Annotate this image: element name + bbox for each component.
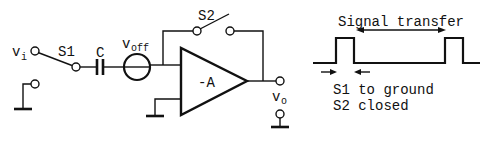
offset-source-label: v off: [122, 36, 149, 54]
svg-text:i: i: [21, 52, 27, 63]
svg-text:v: v: [12, 44, 20, 60]
noninverting-input-wire: [155, 99, 181, 115]
switch2-label: S2: [198, 8, 215, 24]
pulse-width-arrows-icon: [321, 69, 370, 75]
svg-text:v: v: [272, 89, 280, 105]
signal-transfer-label: Signal transfer: [338, 14, 464, 30]
capacitor-icon: [97, 59, 103, 75]
switch-control-waveform: [313, 38, 480, 63]
output-terminal-icon: [276, 77, 284, 85]
input-terminal-icon: [31, 47, 39, 55]
output-ground-terminal-icon: [276, 110, 284, 118]
feedback-wire-right: [234, 31, 263, 81]
output-label: v o: [272, 89, 287, 107]
input-terminal-label: v i: [12, 44, 27, 63]
switch2-right-terminal-icon: [226, 27, 234, 35]
svg-text:o: o: [281, 96, 287, 107]
phase-note-line1: S1 to ground: [333, 82, 434, 98]
ground-wire: [23, 84, 31, 108]
svg-text:off: off: [131, 43, 149, 54]
switch1-common-terminal-icon: [72, 63, 80, 71]
phase-note-line2: S2 closed: [333, 98, 409, 114]
capacitor-label: C: [96, 45, 104, 61]
switch1-label: S1: [58, 44, 75, 60]
switch2-left-terminal-icon: [193, 27, 201, 35]
switched-capacitor-offset-cancellation-diagram: v i S1 C v off S2 -A v o: [0, 0, 494, 141]
switch1-ground-terminal-icon: [31, 80, 39, 88]
amplifier-gain-label: -A: [198, 75, 215, 91]
svg-text:v: v: [122, 36, 130, 52]
